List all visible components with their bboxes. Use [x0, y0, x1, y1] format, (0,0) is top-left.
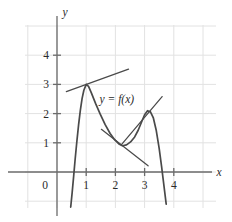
- axes-layer: [8, 16, 212, 216]
- function-annotation-label: y = f(x): [99, 93, 135, 106]
- y-axis-tick-label: 2: [43, 108, 49, 120]
- figure-container: 123412340 xyy = f(x): [0, 0, 232, 222]
- x-axis-tick-label: 1: [83, 179, 89, 191]
- labels-layer: xyy = f(x): [61, 6, 222, 178]
- x-axis-tick-label: 4: [171, 179, 177, 191]
- tangent-line-tangent-at-local-minimum: [101, 129, 148, 165]
- tangent-line-tangent-at-first-peak: [66, 69, 128, 91]
- origin-label: 0: [42, 179, 48, 191]
- x-axis-tick-label: 2: [113, 179, 119, 191]
- x-axis-label: x: [215, 166, 222, 178]
- plot-svg: 123412340 xyy = f(x): [0, 0, 232, 222]
- grid-layer: [25, 25, 216, 208]
- y-axis-label: y: [61, 6, 68, 19]
- y-axis-tick-label: 4: [43, 49, 49, 61]
- y-axis-tick-label: 3: [43, 78, 49, 90]
- y-axis-tick-label: 1: [43, 137, 49, 149]
- x-axis-tick-label: 3: [142, 179, 148, 191]
- tangents-layer: [66, 69, 162, 166]
- ticks-layer: 123412340: [42, 49, 177, 191]
